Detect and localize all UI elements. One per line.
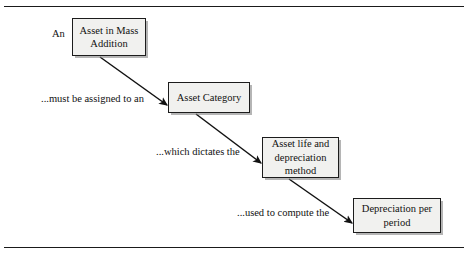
- caption-an: An: [52, 29, 65, 40]
- flow-diagram-figure: An Asset in Mass Addition ...must be ass…: [0, 0, 468, 258]
- node-depreciation-per-period[interactable]: Depreciation per period: [353, 198, 441, 233]
- bottom-horizontal-rule: [4, 247, 464, 248]
- node-asset-in-mass-addition[interactable]: Asset in Mass Addition: [72, 18, 146, 56]
- caption-used-to-compute-the: ...used to compute the: [237, 208, 329, 219]
- node-asset-category[interactable]: Asset Category: [168, 82, 250, 113]
- top-horizontal-rule: [4, 6, 464, 7]
- node-asset-life-and-depreciation-method[interactable]: Asset life and depreciation method: [262, 137, 339, 178]
- caption-which-dictates-the: ...which dictates the: [156, 147, 240, 158]
- caption-must-be-assigned-to-an: ...must be assigned to an: [41, 94, 144, 105]
